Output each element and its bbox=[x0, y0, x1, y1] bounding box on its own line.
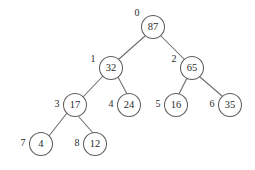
tree-edges bbox=[49, 36, 222, 136]
node-value-5: 16 bbox=[171, 99, 182, 110]
tree-node-5[interactable]: 516 bbox=[156, 94, 188, 117]
tree-edge-3-7 bbox=[49, 113, 67, 136]
tree-node-2[interactable]: 265 bbox=[172, 53, 204, 79]
tree-edge-1-4 bbox=[118, 77, 127, 94]
tree-node-7[interactable]: 74 bbox=[21, 133, 53, 156]
tree-edge-3-8 bbox=[79, 117, 93, 133]
node-index-label-7: 7 bbox=[21, 137, 26, 148]
node-index-label-4: 4 bbox=[109, 98, 114, 109]
node-value-0: 87 bbox=[148, 21, 159, 32]
node-value-1: 32 bbox=[106, 62, 117, 73]
tree-node-6[interactable]: 635 bbox=[210, 94, 242, 117]
tree-node-4[interactable]: 424 bbox=[109, 94, 141, 117]
node-value-7: 4 bbox=[38, 138, 44, 149]
tree-edge-2-5 bbox=[179, 78, 187, 94]
node-index-label-5: 5 bbox=[156, 98, 161, 109]
tree-edge-2-6 bbox=[200, 77, 222, 96]
node-value-6: 35 bbox=[225, 99, 236, 110]
tree-node-0[interactable]: 087 bbox=[135, 7, 165, 38]
node-index-label-6: 6 bbox=[210, 98, 215, 109]
node-value-2: 65 bbox=[187, 62, 198, 73]
tree-edge-0-1 bbox=[119, 36, 145, 59]
tree-nodes: 08713226531742451663574812 bbox=[21, 7, 242, 155]
node-value-8: 12 bbox=[90, 138, 101, 149]
tree-node-1[interactable]: 132 bbox=[91, 53, 123, 79]
node-value-3: 17 bbox=[70, 99, 81, 110]
tree-node-8[interactable]: 812 bbox=[75, 133, 107, 156]
node-value-4: 24 bbox=[124, 99, 135, 110]
node-index-label-0: 0 bbox=[135, 7, 140, 18]
node-index-label-2: 2 bbox=[172, 53, 177, 64]
node-index-label-3: 3 bbox=[55, 98, 60, 109]
tree-edge-1-3 bbox=[83, 76, 103, 97]
tree-canvas: 08713226531742451663574812 bbox=[0, 0, 255, 170]
node-index-label-8: 8 bbox=[75, 137, 80, 148]
node-index-label-1: 1 bbox=[91, 53, 96, 64]
binary-tree-diagram: 08713226531742451663574812 bbox=[0, 0, 255, 170]
tree-node-3[interactable]: 317 bbox=[55, 94, 87, 117]
